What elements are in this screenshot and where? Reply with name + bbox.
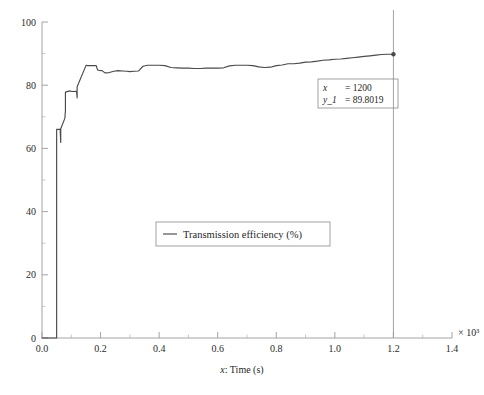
x-tick-label: 1.0 <box>329 343 342 354</box>
y-tick-label: 40 <box>26 206 36 217</box>
x-axis-tick-labels: 0.0 0.2 0.4 0.6 0.8 1.0 1.2 1.4 <box>36 343 459 354</box>
x-tick-label: 0.4 <box>153 343 166 354</box>
y-tick-label: 100 <box>21 17 36 28</box>
cursor-data-point-marker <box>391 52 395 56</box>
data-tip-x-value: = 1200 <box>345 83 372 93</box>
data-tip-y-symbol: y_1 <box>322 95 337 105</box>
y-tick-label: 60 <box>26 143 36 154</box>
y-tick-label: 20 <box>26 269 36 280</box>
x-axis-title-rest: : Time (s) <box>225 364 264 376</box>
legend: Transmission efficiency (%) <box>156 222 330 246</box>
x-tick-label: 0.6 <box>211 343 224 354</box>
legend-entry-label: Transmission efficiency (%) <box>183 229 302 241</box>
series-line-transmission-efficiency <box>42 54 393 338</box>
y-axis-minor-ticks <box>42 54 46 307</box>
y-tick-label: 80 <box>26 80 36 91</box>
x-axis-title: x: Time (s) <box>219 364 263 376</box>
x-tick-label: 0.0 <box>36 343 49 354</box>
x-tick-label: 1.4 <box>446 343 459 354</box>
data-tip-x-symbol: x <box>322 83 328 93</box>
y-axis-tick-labels: 0 20 40 60 80 100 <box>21 17 36 344</box>
x-tick-label: 0.8 <box>270 343 283 354</box>
data-tip-annotation[interactable]: x = 1200 y_1 = 89.8019 <box>318 79 398 108</box>
data-tip-y-value: = 89.8019 <box>345 95 384 105</box>
y-tick-label: 0 <box>31 333 36 344</box>
chart-svg: 0 20 40 60 80 100 <box>0 0 484 395</box>
chart-figure: 0 20 40 60 80 100 <box>0 0 484 395</box>
x-tick-label: 0.2 <box>94 343 107 354</box>
x-axis-multiplier-label: × 10³ <box>458 327 479 338</box>
x-tick-label: 1.2 <box>387 343 400 354</box>
x-axis-minor-ticks <box>71 335 422 339</box>
